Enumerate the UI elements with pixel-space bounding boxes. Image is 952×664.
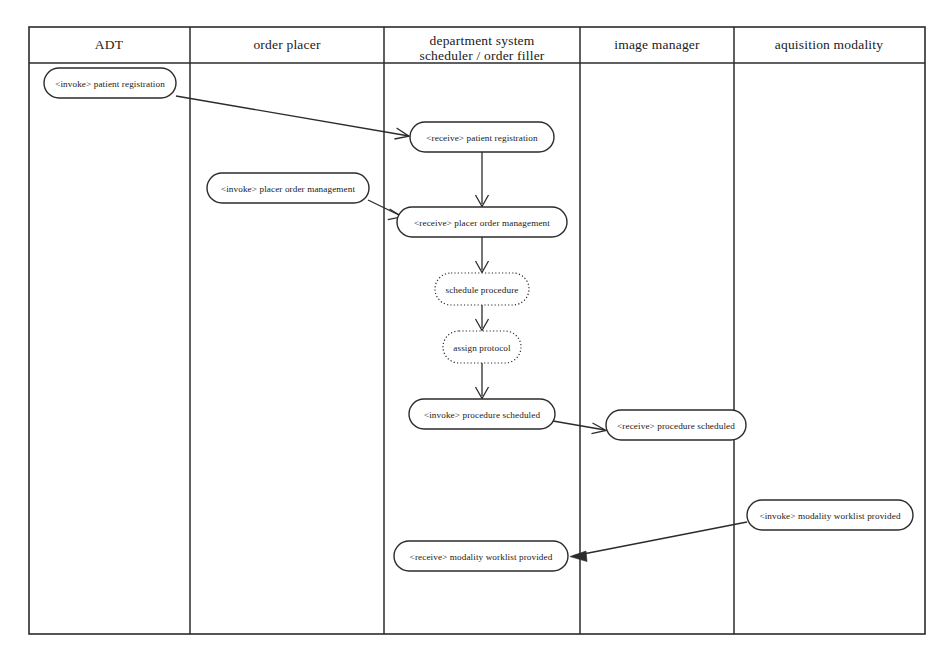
flow-receive-registration-to-receive-order (476, 152, 489, 207)
flow-patient-registration (176, 96, 409, 139)
flow-protocol-to-invoke-scheduled (476, 363, 489, 399)
lane-title-order-placer: order placer (253, 37, 321, 52)
flow-schedule-to-protocol (476, 305, 489, 331)
node-schedule-procedure[interactable]: schedule procedure (435, 273, 529, 305)
node-invoke-placer-order-management[interactable]: <invoke> placer order management (207, 173, 369, 203)
flow-modality-worklist-provided (570, 522, 747, 562)
flow-order-to-schedule (476, 237, 489, 273)
node-invoke-modality-worklist-provided[interactable]: <invoke> modality worklist provided (747, 500, 913, 530)
lane-title-department-system-line1: department system (430, 33, 535, 48)
lane-title-image-manager: image manager (614, 37, 700, 52)
lane-title-adt: ADT (95, 37, 124, 52)
node-receive-placer-order-management[interactable]: <receive> placer order management (397, 207, 567, 237)
swimlane-activity-diagram: ADT order placer department system sched… (0, 0, 952, 664)
diagram-canvas: ADT order placer department system sched… (0, 0, 952, 664)
node-receive-patient-registration[interactable]: <receive> patient registration (410, 122, 554, 152)
flow-placer-order-management (368, 200, 402, 220)
lane-title-department-system-line2: scheduler / order filler (419, 48, 544, 63)
node-invoke-patient-registration[interactable]: <invoke> patient registration (44, 68, 176, 98)
node-receive-procedure-scheduled[interactable]: <receive> procedure scheduled (606, 410, 746, 440)
node-invoke-procedure-scheduled[interactable]: <invoke> procedure scheduled (409, 399, 555, 429)
lane-title-aquisition-modality: aquisition modality (775, 37, 883, 52)
node-assign-protocol[interactable]: assign protocol (443, 331, 521, 363)
node-receive-modality-worklist-provided[interactable]: <receive> modality worklist provided (394, 541, 568, 571)
